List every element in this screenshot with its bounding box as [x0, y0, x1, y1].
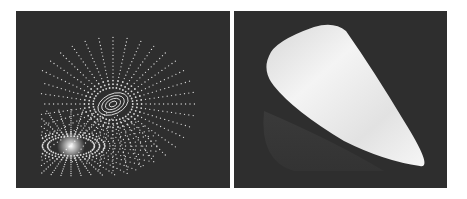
field-lines-render — [16, 11, 230, 188]
dotted-field-panel — [16, 11, 230, 188]
shaded-surface-panel — [234, 11, 447, 188]
surface-render — [234, 11, 447, 188]
